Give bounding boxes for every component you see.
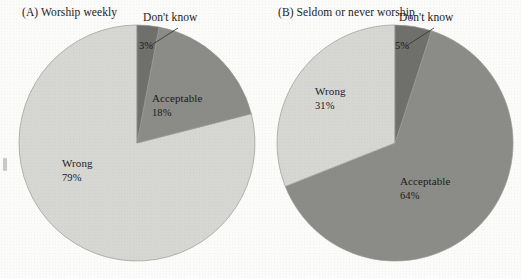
label-acceptable-b-pct: 64% (400, 189, 450, 203)
pct-dont-know-b: 5% (395, 40, 409, 52)
label-wrong-a-name: Wrong (62, 157, 93, 169)
panel-b-pie-svg (258, 0, 518, 278)
label-acceptable-a-name: Acceptable (152, 92, 202, 104)
chart-panel-a: (A) Worship weekly Don't know 3% Accepta… (0, 0, 260, 278)
label-acceptable-b-name: Acceptable (400, 175, 450, 187)
label-wrong-b: Wrong 31% (315, 85, 346, 112)
chart-panel-b: (B) Seldom or never worship Don't know 5… (258, 0, 518, 278)
label-acceptable-a: Acceptable 18% (152, 92, 202, 119)
label-acceptable-a-pct: 18% (152, 106, 202, 120)
label-wrong-a-pct: 79% (62, 171, 93, 185)
label-wrong-b-name: Wrong (315, 85, 346, 97)
label-wrong-b-pct: 31% (315, 99, 346, 113)
callout-dont-know-b: Don't know (399, 10, 454, 24)
panel-a-pie-svg (0, 0, 260, 278)
scan-edge-artifact (3, 158, 7, 171)
callout-dont-know-a: Don't know (143, 10, 198, 24)
label-wrong-a: Wrong 79% (62, 157, 93, 184)
label-acceptable-b: Acceptable 64% (400, 175, 450, 202)
pct-dont-know-a: 3% (139, 40, 153, 52)
